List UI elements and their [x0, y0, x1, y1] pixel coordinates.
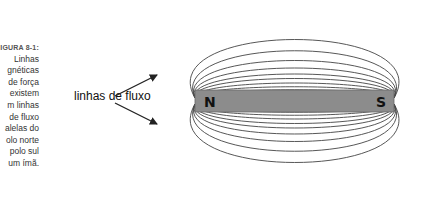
bar-magnet: N S — [195, 90, 394, 112]
annotation-arrows — [115, 75, 157, 124]
magnetic-field-diagram: N S — [0, 0, 429, 202]
field-lines-bottom — [190, 104, 399, 163]
arrow-upper-icon — [115, 75, 157, 96]
field-lines-top — [190, 40, 399, 99]
north-pole-label: N — [204, 94, 216, 110]
south-pole-label: S — [376, 94, 386, 110]
arrow-lower-icon — [115, 103, 157, 124]
